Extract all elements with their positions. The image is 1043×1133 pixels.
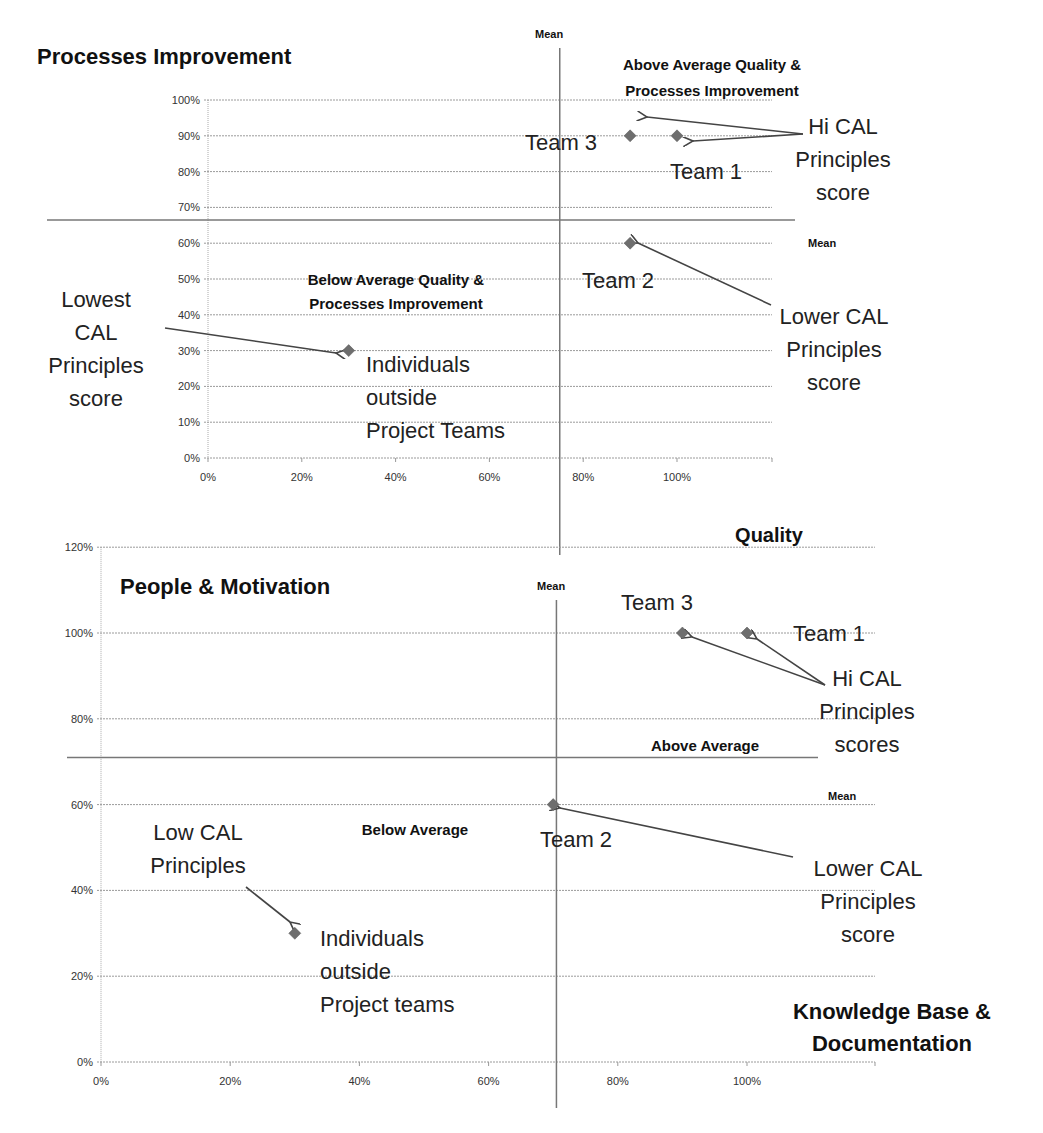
top-lower-cal-line1: Lower CAL xyxy=(780,304,889,329)
bottom-x-tick-label: 80% xyxy=(607,1075,629,1087)
bottom-y-tick-label: 60% xyxy=(71,799,93,811)
bottom-chart-title: People & Motivation xyxy=(120,574,330,599)
top-y-tick-label: 60% xyxy=(178,237,200,249)
top-mean-x-label: Mean xyxy=(535,28,563,40)
top-label-team2: Team 2 xyxy=(582,268,654,293)
bottom-x-tick-label: 60% xyxy=(478,1075,500,1087)
top-y-tick-label: 40% xyxy=(178,309,200,321)
top-chart-title: Processes Improvement xyxy=(37,44,292,69)
top-y-tick-label: 0% xyxy=(184,452,200,464)
top-hi-cal-line1: Hi CAL xyxy=(808,114,878,139)
bottom-x-axis-label-line1: Knowledge Base & xyxy=(793,999,991,1024)
top-data-point-team-2 xyxy=(624,237,636,249)
top-x-tick-label: 100% xyxy=(663,471,691,483)
top-individuals-line1: Individuals xyxy=(366,352,470,377)
top-x-tick-label: 80% xyxy=(572,471,594,483)
bottom-quadrant-below-label: Below Average xyxy=(362,821,468,838)
bottom-y-tick-label: 40% xyxy=(71,884,93,896)
bottom-gridlines xyxy=(97,547,875,1066)
top-arrow-to-team1 xyxy=(693,134,803,141)
top-x-axis-label: Quality xyxy=(735,524,804,546)
bottom-y-tick-label: 0% xyxy=(77,1056,93,1068)
top-gridlines xyxy=(204,100,772,462)
bottom-lower-cal-line1: Lower CAL xyxy=(814,856,923,881)
quadrant-charts: 0%10%20%30%40%50%60%70%80%90%100% 0%20%4… xyxy=(0,0,1043,1133)
bottom-label-team2: Team 2 xyxy=(540,827,612,852)
bottom-low-cal-line1: Low CAL xyxy=(153,820,242,845)
top-individuals-line2: outside xyxy=(366,385,437,410)
bottom-x-tick-label: 100% xyxy=(733,1075,761,1087)
bottom-data-points xyxy=(289,627,753,939)
bottom-data-point-team-3 xyxy=(676,627,688,639)
bottom-label-team1: Team 1 xyxy=(793,621,865,646)
top-label-team3: Team 3 xyxy=(525,130,597,155)
bottom-x-tick-label: 40% xyxy=(348,1075,370,1087)
bottom-hi-cal-line3: scores xyxy=(835,732,900,757)
top-hi-cal-line2: Principles xyxy=(795,147,890,172)
top-y-tick-label: 90% xyxy=(178,130,200,142)
top-x-tick-label: 60% xyxy=(478,471,500,483)
bottom-low-cal-line2: Principles xyxy=(150,853,245,878)
top-lower-cal-line2: Principles xyxy=(786,337,881,362)
top-lower-cal-line3: score xyxy=(807,370,861,395)
bottom-x-axis-label-line2: Documentation xyxy=(812,1031,972,1056)
bottom-lower-cal-line3: score xyxy=(841,922,895,947)
chart-processes-improvement: 0%10%20%30%40%50%60%70%80%90%100% 0%20%4… xyxy=(37,28,891,555)
top-arrow-to-team3 xyxy=(647,117,803,134)
top-label-team1: Team 1 xyxy=(670,159,742,184)
top-quadrant-below-label-line2: Processes Improvement xyxy=(309,295,482,312)
chart-people-motivation: 0%20%40%60%80%100%120% 0%20%40%60%80%100… xyxy=(65,541,991,1108)
top-mean-y-label: Mean xyxy=(808,237,836,249)
top-x-tick-label: 20% xyxy=(291,471,313,483)
top-lowest-cal-line1: Lowest xyxy=(61,287,131,312)
top-data-point-team-1 xyxy=(671,130,683,142)
top-y-tick-label: 50% xyxy=(178,273,200,285)
top-data-point-individuals-outside-project-teams xyxy=(343,345,355,357)
top-y-tick-label: 10% xyxy=(178,416,200,428)
top-y-tick-label: 20% xyxy=(178,380,200,392)
bottom-mean-x-label: Mean xyxy=(537,580,565,592)
top-individuals-line3: Project Teams xyxy=(366,418,505,443)
bottom-data-point-team-2 xyxy=(547,799,559,811)
bottom-hi-cal-line2: Principles xyxy=(819,699,914,724)
bottom-mean-y-label: Mean xyxy=(828,790,856,802)
bottom-y-tick-labels: 0%20%40%60%80%100%120% xyxy=(65,541,93,1068)
bottom-data-point-team-1 xyxy=(741,627,753,639)
top-data-point-team-3 xyxy=(624,130,636,142)
bottom-y-tick-label: 100% xyxy=(65,627,93,639)
bottom-x-tick-label: 20% xyxy=(219,1075,241,1087)
bottom-y-tick-label: 80% xyxy=(71,713,93,725)
bottom-arrow-to-individuals xyxy=(246,887,290,922)
top-y-tick-label: 30% xyxy=(178,345,200,357)
bottom-individuals-line1: Individuals xyxy=(320,926,424,951)
top-hi-cal-line3: score xyxy=(816,180,870,205)
bottom-label-team3: Team 3 xyxy=(621,590,693,615)
top-y-tick-label: 100% xyxy=(172,94,200,106)
top-y-tick-labels: 0%10%20%30%40%50%60%70%80%90%100% xyxy=(172,94,200,464)
top-y-tick-label: 80% xyxy=(178,166,200,178)
bottom-quadrant-above-label: Above Average xyxy=(651,737,759,754)
bottom-hi-cal-line1: Hi CAL xyxy=(832,666,902,691)
bottom-y-tick-label: 120% xyxy=(65,541,93,553)
top-arrow-to-team2 xyxy=(638,243,771,305)
top-lowest-cal-line4: score xyxy=(69,386,123,411)
bottom-individuals-line3: Project teams xyxy=(320,992,455,1017)
top-x-tick-labels: 0%20%40%60%80%100% xyxy=(200,471,691,483)
top-x-tick-label: 40% xyxy=(385,471,407,483)
bottom-lower-cal-line2: Principles xyxy=(820,889,915,914)
bottom-x-tick-label: 0% xyxy=(93,1075,109,1087)
top-lowest-cal-line3: Principles xyxy=(48,353,143,378)
top-x-tick-label: 0% xyxy=(200,471,216,483)
top-y-tick-label: 70% xyxy=(178,201,200,213)
top-quadrant-below-label-line1: Below Average Quality & xyxy=(308,271,485,288)
bottom-individuals-line2: outside xyxy=(320,959,391,984)
top-quadrant-above-label-line1: Above Average Quality & xyxy=(623,56,801,73)
bottom-y-tick-label: 20% xyxy=(71,970,93,982)
bottom-x-tick-labels: 0%20%40%60%80%100% xyxy=(93,1075,761,1087)
top-lowest-cal-line2: CAL xyxy=(75,320,118,345)
top-quadrant-above-label-line2: Processes Improvement xyxy=(625,82,798,99)
bottom-data-point-individuals-outside-project-teams xyxy=(289,927,301,939)
